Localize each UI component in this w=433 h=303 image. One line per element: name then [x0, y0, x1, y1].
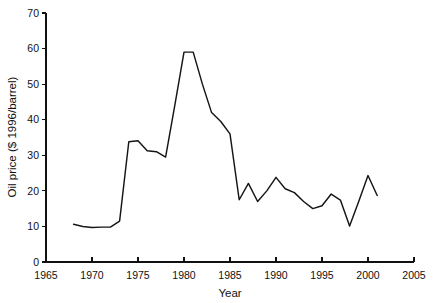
- chart-container: 010203040506070 Oil price ($ 1996/barrel…: [0, 0, 433, 303]
- y-axis: 010203040506070 Oil price ($ 1996/barrel…: [6, 7, 46, 268]
- x-axis-title: Year: [218, 287, 241, 299]
- x-tick-label: 1980: [172, 269, 196, 281]
- y-axis-ticks: 010203040506070: [27, 7, 46, 268]
- x-tick-label: 1995: [310, 269, 334, 281]
- y-axis-title: Oil price ($ 1996/barrel): [6, 76, 18, 197]
- data-series-group: [74, 52, 378, 227]
- x-tick-label: 2005: [402, 269, 426, 281]
- oil-price-line-chart: 010203040506070 Oil price ($ 1996/barrel…: [0, 0, 433, 303]
- x-tick-label: 1985: [218, 269, 242, 281]
- y-tick-label: 40: [27, 113, 39, 125]
- x-tick-label: 1965: [34, 269, 58, 281]
- x-tick-label: 1970: [80, 269, 104, 281]
- y-tick-label: 50: [27, 78, 39, 90]
- x-tick-label: 1975: [126, 269, 150, 281]
- y-tick-label: 0: [33, 256, 39, 268]
- x-axis-ticks: 196519701975198019851990199520002005: [34, 257, 426, 281]
- x-tick-label: 1990: [264, 269, 288, 281]
- x-tick-label: 2000: [356, 269, 380, 281]
- y-tick-label: 20: [27, 185, 39, 197]
- y-tick-label: 60: [27, 42, 39, 54]
- y-tick-label: 10: [27, 220, 39, 232]
- y-tick-label: 30: [27, 149, 39, 161]
- x-axis: 196519701975198019851990199520002005 Yea…: [34, 257, 426, 299]
- y-tick-label: 70: [27, 7, 39, 19]
- oil-price-line: [74, 52, 378, 227]
